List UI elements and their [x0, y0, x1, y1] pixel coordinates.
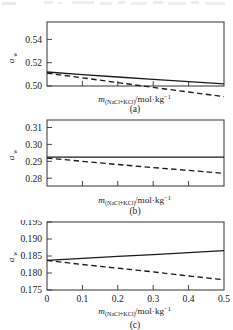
x-axis-subscript: (NaCl+KCl) — [105, 311, 136, 318]
x-tick-label: 0.1 — [76, 293, 88, 304]
svg-text:/mol·kg−1: /mol·kg−1 — [135, 93, 171, 104]
x-axis-unit-exponent: −1 — [164, 93, 171, 100]
plot-frame — [47, 120, 224, 186]
y-axis-title: a w — [6, 52, 18, 63]
x-tick-label: 0.2 — [112, 293, 124, 304]
panel-b: 0.31 0.30 0.29 0.28 a w m(NaCl+KCl) /mol… — [0, 114, 233, 220]
x-axis-unit-exponent: −1 — [164, 305, 171, 312]
y-tick-label: 0.28 — [25, 173, 42, 184]
y-tick-label: 0.52 — [25, 57, 42, 68]
panel-c-plot: 0.195 0.190 0.185 0.180 0.175 a w 0 0.1 … — [0, 220, 233, 330]
y-tick-label: 0.175 — [20, 284, 42, 295]
y-tick-label: 0.30 — [25, 139, 42, 150]
svg-text:m(NaCl+KCl): m(NaCl+KCl) — [98, 306, 135, 318]
y-axis-title: a w — [6, 149, 18, 160]
x-axis-unit: /mol·kg — [135, 306, 164, 316]
y-tick-label: 0.29 — [25, 156, 42, 167]
x-axis-unit-exponent: −1 — [164, 194, 171, 201]
scan-artifact-strip — [0, 0, 233, 9]
panel-b-plot: 0.31 0.30 0.29 0.28 a w m(NaCl+KCl) /mol… — [0, 114, 233, 220]
y-axis-title: a w — [6, 251, 18, 262]
svg-text:/mol·kg−1: /mol·kg−1 — [135, 305, 171, 316]
y-axis-subscript: w — [11, 52, 18, 57]
y-tick-label: 0.190 — [20, 233, 42, 244]
panel-a-plot: 0.54 0.52 0.50 a w m(NaCl+KCl) /mol·kg−1 — [0, 9, 233, 114]
panel-caption: (c) — [130, 319, 141, 330]
y-axis-symbol: a — [6, 257, 16, 262]
x-tick-label: 0.5 — [218, 293, 230, 304]
panel-caption: (a) — [130, 103, 141, 114]
x-axis-title: m(NaCl+KCl) /mol·kg−1 — [98, 305, 171, 319]
panel-a: 0.54 0.52 0.50 a w m(NaCl+KCl) /mol·kg−1 — [0, 9, 233, 114]
y-tick-label: 0.50 — [25, 80, 42, 91]
panel-caption: (b) — [129, 205, 140, 217]
y-tick-label: 0.180 — [20, 267, 42, 278]
svg-text:/mol·kg−1: /mol·kg−1 — [135, 194, 171, 205]
y-axis-subscript: w — [11, 149, 18, 154]
x-axis-unit: /mol·kg — [135, 195, 164, 205]
y-tick-label: 0.195 — [20, 220, 42, 227]
panel-c: 0.195 0.190 0.185 0.180 0.175 a w 0 0.1 … — [0, 220, 233, 330]
y-axis-subscript: w — [11, 251, 18, 256]
x-tick-label: 0.3 — [147, 293, 159, 304]
x-tick-label: 0.4 — [183, 293, 195, 304]
figure-water-activity-vs-molality: 0.54 0.52 0.50 a w m(NaCl+KCl) /mol·kg−1 — [0, 0, 233, 330]
y-axis-symbol: a — [6, 155, 16, 160]
y-tick-label: 0.54 — [25, 34, 42, 45]
x-tick-label: 0 — [45, 293, 50, 304]
y-axis-symbol: a — [6, 58, 16, 63]
y-tick-label: 0.31 — [25, 122, 42, 133]
y-tick-label: 0.185 — [20, 250, 42, 261]
